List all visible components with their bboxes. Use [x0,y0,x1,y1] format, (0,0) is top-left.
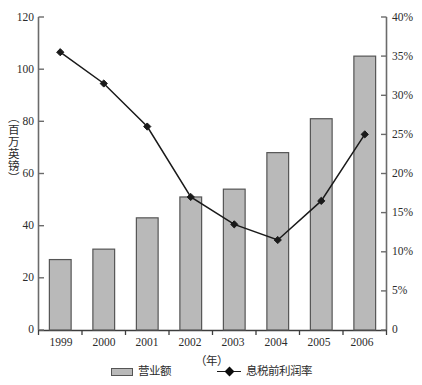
bar-2005 [310,119,332,330]
right-axis-ticks [381,17,387,330]
legend-line-swatch-icon [217,368,241,376]
bar-2001 [136,218,158,330]
bar-1999 [49,260,71,330]
legend-label-margin: 息税前利润率 [246,366,312,378]
bar-2002 [180,197,202,330]
chart-container: （百万英镑） 0 20 40 60 80 100 120 0 5% 10% 15… [0,0,422,385]
legend-entry-margin: 息税前利润率 [217,366,312,378]
legend-bar-swatch-icon [111,368,133,376]
left-axis-ticks [39,17,45,330]
bar-2006 [354,56,376,330]
bar-2003 [223,189,245,330]
plot-area [0,0,422,385]
legend-label-revenue: 营业额 [138,366,171,378]
bar-2000 [93,249,115,330]
chart-legend: 营业额 息税前利润率 [0,366,422,378]
legend-entry-revenue: 营业额 [111,366,171,378]
